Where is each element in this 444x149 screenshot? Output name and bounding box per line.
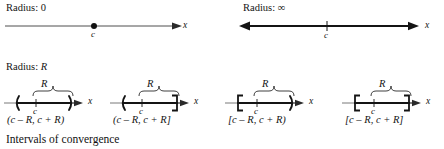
interval-3-number-line [342, 88, 422, 114]
radius-zero-number-line [4, 18, 186, 34]
interval-2-number-line [225, 88, 305, 114]
radius-infinity-axis-label: x [425, 20, 429, 30]
interval-2-axis-label: x [309, 96, 313, 106]
interval-3-notation: [c – R, c + R] [345, 114, 403, 126]
radius-zero-heading: Radius: 0 [6, 2, 46, 14]
radius-zero-center-label: c [91, 29, 95, 39]
radius-infinity-heading: Radius: ∞ [243, 2, 285, 14]
radius-infinity-number-line [238, 18, 424, 34]
interval-0-axis-label: x [88, 96, 92, 106]
radius-r-heading: Radius: R [6, 61, 47, 73]
radius-zero-heading-value: 0 [41, 2, 46, 13]
interval-2-notation: [c – R, c + R) [228, 114, 286, 126]
radius-zero-axis-label: x [183, 20, 187, 30]
radius-infinity-heading-prefix: Radius: [243, 2, 275, 13]
interval-3-axis-label: x [426, 96, 430, 106]
radius-infinity-center-label: c [324, 30, 328, 40]
interval-1-notation: (c – R, c + R] [113, 114, 171, 126]
intervals-of-convergence-figure: Radius: 0 x c Radius: ∞ x c Radius: R [0, 0, 444, 149]
interval-0-number-line [4, 88, 84, 114]
interval-1-number-line [110, 88, 190, 114]
radius-r-heading-value: R [41, 61, 47, 72]
figure-caption: Intervals of convergence [6, 133, 119, 146]
radius-infinity-heading-value: ∞ [278, 2, 286, 13]
interval-1-axis-label: x [194, 96, 198, 106]
radius-r-heading-prefix: Radius: [6, 61, 38, 72]
radius-zero-heading-prefix: Radius: [6, 2, 38, 13]
interval-0-notation: (c – R, c + R) [7, 114, 64, 126]
